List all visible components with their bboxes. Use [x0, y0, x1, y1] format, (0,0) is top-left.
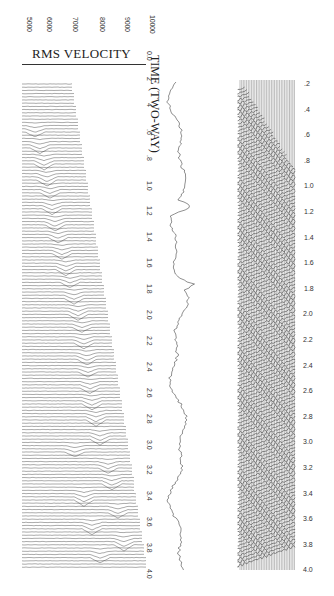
- cmp-gather-panel: [238, 80, 295, 570]
- velocity-spectrum-panel: [22, 84, 146, 568]
- seismic-plots: [0, 0, 334, 596]
- stacked-trace-panel: [167, 82, 195, 570]
